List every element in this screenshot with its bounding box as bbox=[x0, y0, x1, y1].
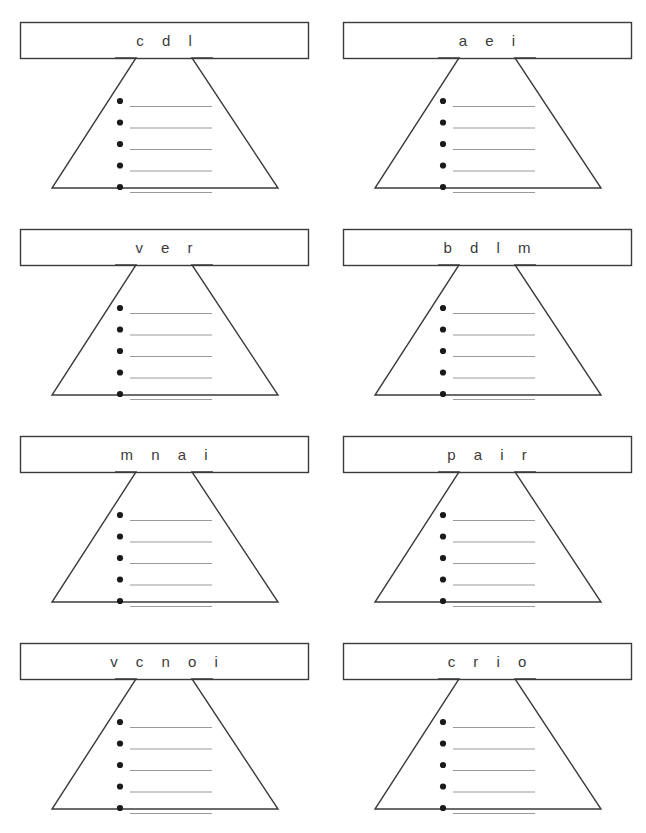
funnel-body bbox=[375, 679, 601, 809]
bullet-icon bbox=[117, 740, 123, 746]
header-bar[interactable] bbox=[21, 437, 309, 473]
bullet-icon bbox=[117, 533, 123, 539]
bullet-icon bbox=[440, 512, 446, 518]
worksheet-page: c d la e iv e rb d l mm n a ip a i rv c … bbox=[0, 0, 646, 833]
bullet-icon bbox=[117, 762, 123, 768]
funnel-diagram bbox=[323, 621, 646, 828]
funnel-body bbox=[52, 265, 278, 395]
bullet-icon bbox=[440, 805, 446, 811]
bullet-icon bbox=[117, 598, 123, 604]
funnel-diagram bbox=[323, 414, 646, 621]
header-bar[interactable] bbox=[21, 230, 309, 266]
bullet-icon bbox=[117, 555, 123, 561]
bullet-icon bbox=[440, 141, 446, 147]
funnel-body bbox=[52, 58, 278, 188]
bullet-icon bbox=[117, 576, 123, 582]
bullet-icon bbox=[440, 762, 446, 768]
bullet-icon bbox=[440, 98, 446, 104]
bullet-icon bbox=[440, 369, 446, 375]
funnel-card: m n a i bbox=[0, 414, 323, 621]
funnel-grid: c d la e iv e rb d l mm n a ip a i rv c … bbox=[0, 0, 646, 833]
bullet-icon bbox=[117, 162, 123, 168]
funnel-card: b d l m bbox=[323, 207, 646, 414]
bullet-icon bbox=[440, 740, 446, 746]
header-bar[interactable] bbox=[344, 644, 632, 680]
funnel-card: a e i bbox=[323, 0, 646, 207]
bullet-icon bbox=[117, 119, 123, 125]
bullet-icon bbox=[117, 305, 123, 311]
funnel-diagram bbox=[0, 0, 323, 207]
bullet-icon bbox=[117, 326, 123, 332]
bullet-icon bbox=[117, 391, 123, 397]
bullet-icon bbox=[117, 184, 123, 190]
bullet-icon bbox=[117, 348, 123, 354]
bullet-icon bbox=[117, 141, 123, 147]
bullet-icon bbox=[117, 98, 123, 104]
funnel-card: v c n o i bbox=[0, 621, 323, 828]
funnel-card: p a i r bbox=[323, 414, 646, 621]
bullet-icon bbox=[440, 119, 446, 125]
funnel-body bbox=[375, 58, 601, 188]
header-bar[interactable] bbox=[344, 23, 632, 59]
funnel-card: v e r bbox=[0, 207, 323, 414]
funnel-body bbox=[52, 472, 278, 602]
header-bar[interactable] bbox=[21, 23, 309, 59]
funnel-body bbox=[375, 472, 601, 602]
funnel-diagram bbox=[323, 0, 646, 207]
funnel-diagram bbox=[0, 621, 323, 828]
bullet-icon bbox=[440, 598, 446, 604]
funnel-card: c d l bbox=[0, 0, 323, 207]
bullet-icon bbox=[117, 805, 123, 811]
bullet-icon bbox=[440, 783, 446, 789]
bullet-icon bbox=[117, 783, 123, 789]
funnel-card: c r i o bbox=[323, 621, 646, 828]
bullet-icon bbox=[440, 348, 446, 354]
funnel-body bbox=[52, 679, 278, 809]
bullet-icon bbox=[440, 326, 446, 332]
bullet-icon bbox=[440, 184, 446, 190]
funnel-diagram bbox=[0, 414, 323, 621]
bullet-icon bbox=[440, 305, 446, 311]
bullet-icon bbox=[440, 719, 446, 725]
bullet-icon bbox=[117, 512, 123, 518]
bullet-icon bbox=[440, 555, 446, 561]
bullet-icon bbox=[440, 576, 446, 582]
funnel-diagram bbox=[323, 207, 646, 414]
bullet-icon bbox=[117, 369, 123, 375]
header-bar[interactable] bbox=[21, 644, 309, 680]
funnel-body bbox=[375, 265, 601, 395]
bullet-icon bbox=[440, 162, 446, 168]
header-bar[interactable] bbox=[344, 230, 632, 266]
bullet-icon bbox=[117, 719, 123, 725]
header-bar[interactable] bbox=[344, 437, 632, 473]
bullet-icon bbox=[440, 533, 446, 539]
bullet-icon bbox=[440, 391, 446, 397]
funnel-diagram bbox=[0, 207, 323, 414]
